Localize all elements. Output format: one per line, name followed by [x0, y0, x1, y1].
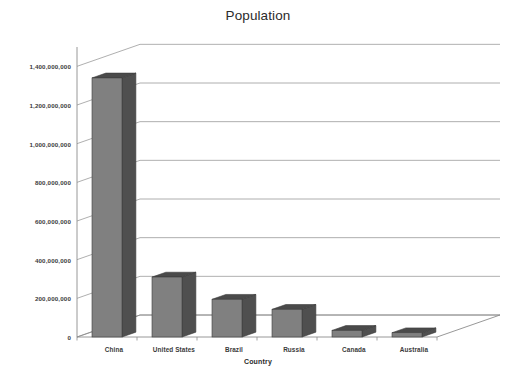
y-tick-label-4: 800,000,000 [0, 179, 71, 186]
bar-russia [272, 305, 316, 337]
x-tick-label-united-states: United States [153, 346, 195, 353]
x-tick-marks-group [77, 337, 437, 341]
x-tick-label-brazil: Brazil [225, 346, 243, 353]
bar-china [92, 73, 136, 337]
x-tick-label-canada: Canada [342, 346, 366, 353]
y-tick-label-2: 400,000,000 [0, 256, 71, 263]
y-tick-label-0: 0 [0, 334, 71, 341]
bar-canada [332, 326, 376, 337]
x-tick-label-russia: Russia [283, 346, 305, 353]
y-tick-label-3: 600,000,000 [0, 218, 71, 225]
chart-plot-area [0, 0, 516, 386]
bar-united-states [152, 272, 196, 337]
y-tick-label-6: 1,200,000,000 [0, 102, 71, 109]
bar-brazil [212, 294, 256, 337]
axes-group [77, 47, 500, 337]
bar-australia [392, 328, 436, 337]
bars-group [92, 73, 436, 337]
population-bar-chart: Population 0200,000,000400,000,000600,00… [0, 0, 516, 386]
gridlines-group [77, 44, 500, 337]
gridline-depth-7 [77, 44, 140, 66]
y-tick-label-7: 1,400,000,000 [0, 63, 71, 70]
y-tick-label-1: 200,000,000 [0, 295, 71, 302]
x-tick-label-australia: Australia [400, 346, 428, 353]
x-tick-label-china: China [105, 346, 123, 353]
x-axis-title: Country [0, 358, 516, 365]
y-tick-label-5: 1,000,000,000 [0, 140, 71, 147]
